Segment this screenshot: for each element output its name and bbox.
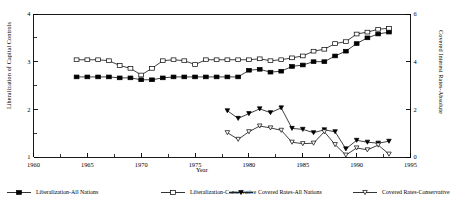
series-marker (225, 58, 230, 62)
series-marker (74, 75, 79, 79)
series-marker (182, 75, 187, 79)
y-tick-label-left: 2 (27, 106, 30, 113)
series-marker (171, 58, 176, 62)
series-marker (322, 60, 327, 64)
series-line (77, 28, 389, 75)
series-marker (247, 68, 252, 72)
y-tick-label-left: 4 (27, 10, 31, 17)
series-line (77, 32, 389, 80)
x-tick-label: 1980 (243, 161, 256, 168)
chart-figure: 1960196519701975198019851990199512340246… (0, 0, 456, 207)
series-marker (160, 59, 165, 63)
series-marker (257, 107, 262, 111)
series-marker (279, 69, 284, 73)
series-marker (236, 137, 241, 141)
series-marker (365, 30, 370, 34)
series-marker (387, 152, 392, 156)
series-marker (290, 65, 295, 69)
series-marker (344, 153, 349, 157)
series-marker (117, 76, 122, 80)
series-marker (343, 49, 348, 53)
series-marker (279, 106, 284, 110)
legend-marker-filled-triangle-down (228, 188, 254, 197)
series-marker (387, 30, 392, 34)
x-tick-label: 1965 (81, 161, 94, 168)
y-axis-right-label: Covered Interest Rates-Absolute (438, 30, 445, 114)
series-marker (236, 75, 241, 79)
series-marker (333, 54, 338, 58)
series-marker (268, 111, 273, 115)
series-marker (311, 49, 316, 53)
series-marker (279, 58, 284, 62)
series-marker (150, 66, 155, 70)
y-axis-left-label: Liberalization of Capital Controls (5, 22, 12, 109)
series-marker (214, 58, 219, 62)
series-line (227, 108, 389, 149)
legend-marker-filled-square (6, 188, 32, 197)
y-tick-label-right: 2 (414, 106, 417, 113)
series-marker (376, 27, 381, 31)
series-marker (117, 64, 122, 68)
x-axis-label: Year (196, 166, 208, 173)
series-marker (203, 58, 208, 62)
series-marker (182, 59, 187, 63)
series-marker (128, 66, 133, 70)
y-tick-label-left: 1 (27, 153, 30, 160)
series-marker (107, 75, 112, 79)
series-marker (376, 32, 381, 36)
series-marker (236, 58, 241, 62)
series-marker (247, 112, 252, 116)
legend-label: Covered Rates-All Nations (258, 189, 322, 195)
series-marker (203, 75, 208, 79)
legend-marker-open-triangle-down (352, 188, 378, 197)
series-marker (343, 40, 348, 44)
series-line (227, 126, 389, 155)
series-marker (139, 73, 144, 77)
series-marker (193, 63, 198, 67)
series-marker (354, 42, 359, 46)
chart-legend: Liberalization-All NationsLiberalization… (0, 186, 456, 204)
series-marker (268, 59, 273, 63)
series-marker (128, 76, 133, 80)
legend-label: Liberalization-All Nations (36, 189, 98, 195)
series-marker (257, 57, 262, 61)
y-tick-label-right: 6 (414, 10, 417, 17)
series-marker (322, 47, 327, 51)
chart-canvas: 1960196519701975198019851990199512340246 (0, 0, 456, 207)
legend-marker-open-square (160, 188, 186, 197)
series-marker (107, 59, 112, 63)
series-marker (300, 54, 305, 58)
x-tick-label: 1985 (296, 161, 309, 168)
x-tick-label: 1960 (27, 161, 40, 168)
series-marker (225, 131, 230, 135)
series-marker (171, 75, 176, 79)
series-marker (193, 75, 198, 79)
legend-label: Covered Rates-Conservative (382, 189, 450, 195)
series-marker (85, 75, 90, 79)
series-marker (268, 70, 273, 74)
y-tick-label-right: 4 (414, 58, 418, 65)
series-marker (311, 60, 316, 64)
series-marker (247, 58, 252, 62)
series-marker (214, 75, 219, 79)
series-marker (160, 76, 165, 80)
series-marker (150, 78, 155, 82)
series-marker (354, 32, 359, 36)
series-marker (344, 147, 349, 151)
series-marker (333, 42, 338, 46)
series-marker (257, 67, 262, 71)
series-marker (365, 36, 370, 40)
series-marker (311, 131, 316, 135)
series-marker (96, 58, 101, 62)
series-marker (387, 26, 392, 30)
series-marker (74, 58, 79, 62)
series-marker (300, 63, 305, 67)
series-marker (96, 75, 101, 79)
series-marker (225, 75, 230, 79)
series-marker (85, 58, 90, 62)
x-tick-label: 1995 (404, 161, 417, 168)
x-tick-label: 1970 (135, 161, 148, 168)
series-marker (236, 116, 241, 120)
series-marker (139, 78, 144, 82)
y-tick-label-right: 0 (414, 153, 417, 160)
